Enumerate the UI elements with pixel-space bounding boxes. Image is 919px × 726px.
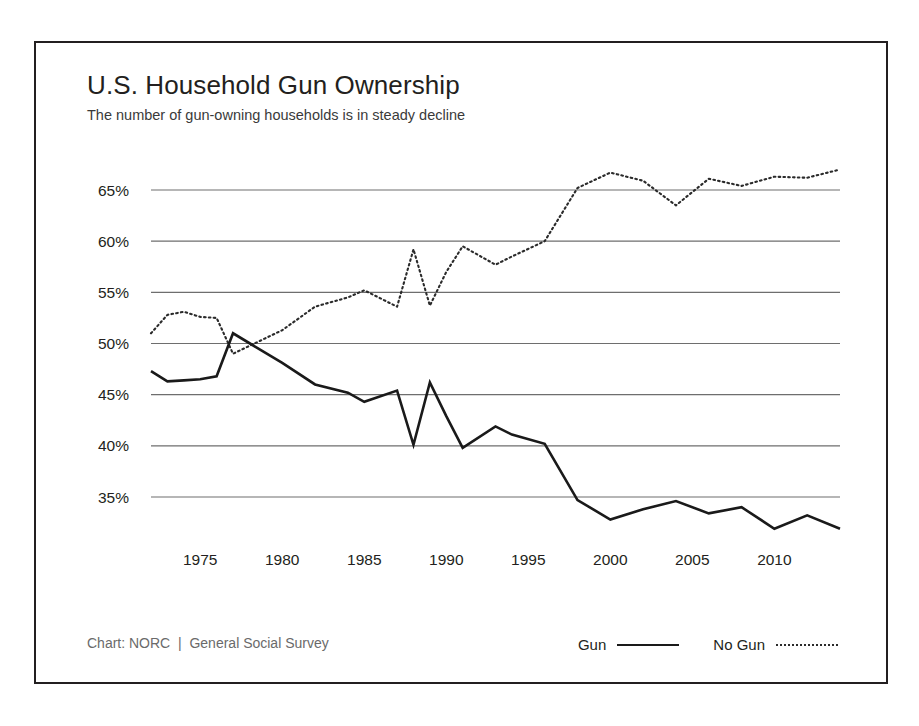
legend-swatch-solid-icon <box>617 644 679 646</box>
legend-entry-no-gun: No Gun <box>713 636 838 653</box>
y-axis-tick-labels: 65%60%55%50%45%40%35% <box>98 182 129 506</box>
legend-swatch-dotted-icon <box>776 644 838 646</box>
legend-label-no-gun: No Gun <box>713 636 765 653</box>
x-axis-tick-label: 2000 <box>593 551 628 568</box>
line-chart-svg: 65%60%55%50%45%40%35% 197519801985199019… <box>36 43 890 686</box>
x-axis-tick-label: 1990 <box>429 551 464 568</box>
y-axis-tick-label: 60% <box>98 233 129 250</box>
legend-label-gun: Gun <box>578 636 606 653</box>
y-axis-tick-label: 40% <box>98 437 129 454</box>
x-axis-tick-label: 2010 <box>757 551 792 568</box>
x-axis-tick-label: 1995 <box>511 551 545 568</box>
chart-legend: Gun No Gun <box>578 636 838 653</box>
x-axis-tick-label: 1980 <box>265 551 300 568</box>
y-axis-tick-label: 35% <box>98 489 129 506</box>
legend-entry-gun: Gun <box>578 636 679 653</box>
series-line-gun <box>151 333 840 528</box>
x-axis-tick-label: 2005 <box>675 551 709 568</box>
chart-credit: Chart: NORC | General Social Survey <box>87 635 329 651</box>
y-axis-tick-label: 45% <box>98 386 129 403</box>
y-axis-tick-label: 65% <box>98 182 129 199</box>
y-axis-tick-label: 55% <box>98 284 129 301</box>
x-axis-tick-label: 1985 <box>347 551 381 568</box>
gridlines <box>151 190 840 497</box>
y-axis-tick-label: 50% <box>98 335 129 352</box>
plot-area: 65%60%55%50%45%40%35% 197519801985199019… <box>36 43 890 686</box>
series-line-no-gun <box>151 170 840 354</box>
chart-card: U.S. Household Gun Ownership The number … <box>34 41 888 684</box>
x-axis-tick-label: 1975 <box>183 551 217 568</box>
x-axis-tick-labels: 19751980198519901995200020052010 <box>183 551 792 568</box>
